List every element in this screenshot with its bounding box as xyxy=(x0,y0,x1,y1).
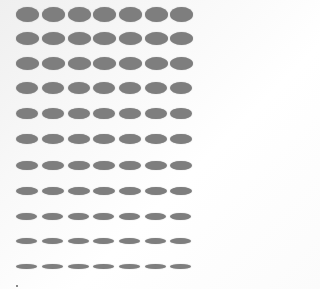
ellipse xyxy=(42,264,63,269)
ellipse xyxy=(42,213,63,220)
ellipse xyxy=(16,57,39,70)
ellipse xyxy=(68,213,89,220)
ellipse xyxy=(170,187,192,195)
ellipse xyxy=(93,57,116,70)
ellipse xyxy=(145,213,166,220)
ellipse xyxy=(170,108,192,119)
ellipse xyxy=(16,32,39,45)
ellipse xyxy=(145,32,168,45)
ellipse xyxy=(68,32,91,45)
ellipse xyxy=(145,264,166,269)
ellipse xyxy=(145,187,167,195)
ellipse xyxy=(145,238,166,244)
ellipse xyxy=(16,82,38,94)
ellipse xyxy=(119,213,140,220)
ellipse xyxy=(42,7,65,22)
ellipse xyxy=(68,7,91,22)
ellipse xyxy=(93,187,115,195)
ellipse xyxy=(16,238,37,244)
ellipse xyxy=(170,161,192,170)
ellipse xyxy=(68,57,91,70)
ellipse xyxy=(145,134,167,144)
ellipse xyxy=(170,7,193,22)
ellipse xyxy=(93,82,115,94)
ellipse xyxy=(42,108,64,119)
ellipse xyxy=(42,161,64,170)
ellipse xyxy=(93,238,114,244)
ellipse xyxy=(68,238,89,244)
ellipse xyxy=(119,82,141,94)
ellipse xyxy=(145,82,167,94)
ellipse xyxy=(68,82,90,94)
ellipse xyxy=(145,161,167,170)
ellipse xyxy=(42,187,64,195)
ellipse xyxy=(68,161,90,170)
ellipse xyxy=(42,134,64,144)
ellipse xyxy=(119,134,141,144)
ellipse xyxy=(42,32,65,45)
ellipse xyxy=(119,57,142,70)
ellipse xyxy=(170,82,192,94)
ellipse xyxy=(119,264,140,269)
ellipse xyxy=(170,57,193,70)
ellipse xyxy=(16,264,37,269)
ellipse xyxy=(68,108,90,119)
ellipse xyxy=(170,134,192,144)
ellipse xyxy=(16,161,38,170)
ellipse xyxy=(119,238,140,244)
ellipse xyxy=(68,134,90,144)
ellipse xyxy=(16,213,37,220)
ellipse xyxy=(68,187,90,195)
ellipse xyxy=(170,238,191,244)
ellipse xyxy=(16,108,38,119)
ellipse xyxy=(16,7,39,22)
ellipse xyxy=(93,213,114,220)
stray-speck xyxy=(16,285,18,287)
ellipse-grid xyxy=(0,0,209,289)
ellipse xyxy=(170,32,193,45)
ellipse xyxy=(119,7,142,22)
ellipse xyxy=(16,134,38,144)
ellipse xyxy=(93,161,115,170)
ellipse xyxy=(93,134,115,144)
ellipse xyxy=(93,7,116,22)
ellipse xyxy=(42,238,63,244)
ellipse xyxy=(119,32,142,45)
ellipse xyxy=(93,32,116,45)
ellipse xyxy=(119,161,141,170)
ellipse xyxy=(119,187,141,195)
ellipse xyxy=(145,57,168,70)
ellipse xyxy=(145,108,167,119)
ellipse xyxy=(42,57,65,70)
ellipse xyxy=(119,108,141,119)
ellipse xyxy=(93,108,115,119)
ellipse xyxy=(170,213,191,220)
ellipse xyxy=(93,264,114,269)
ellipse xyxy=(16,187,38,195)
ellipse xyxy=(68,264,89,269)
ellipse xyxy=(170,264,191,269)
ellipse xyxy=(42,82,64,94)
ellipse xyxy=(145,7,168,22)
